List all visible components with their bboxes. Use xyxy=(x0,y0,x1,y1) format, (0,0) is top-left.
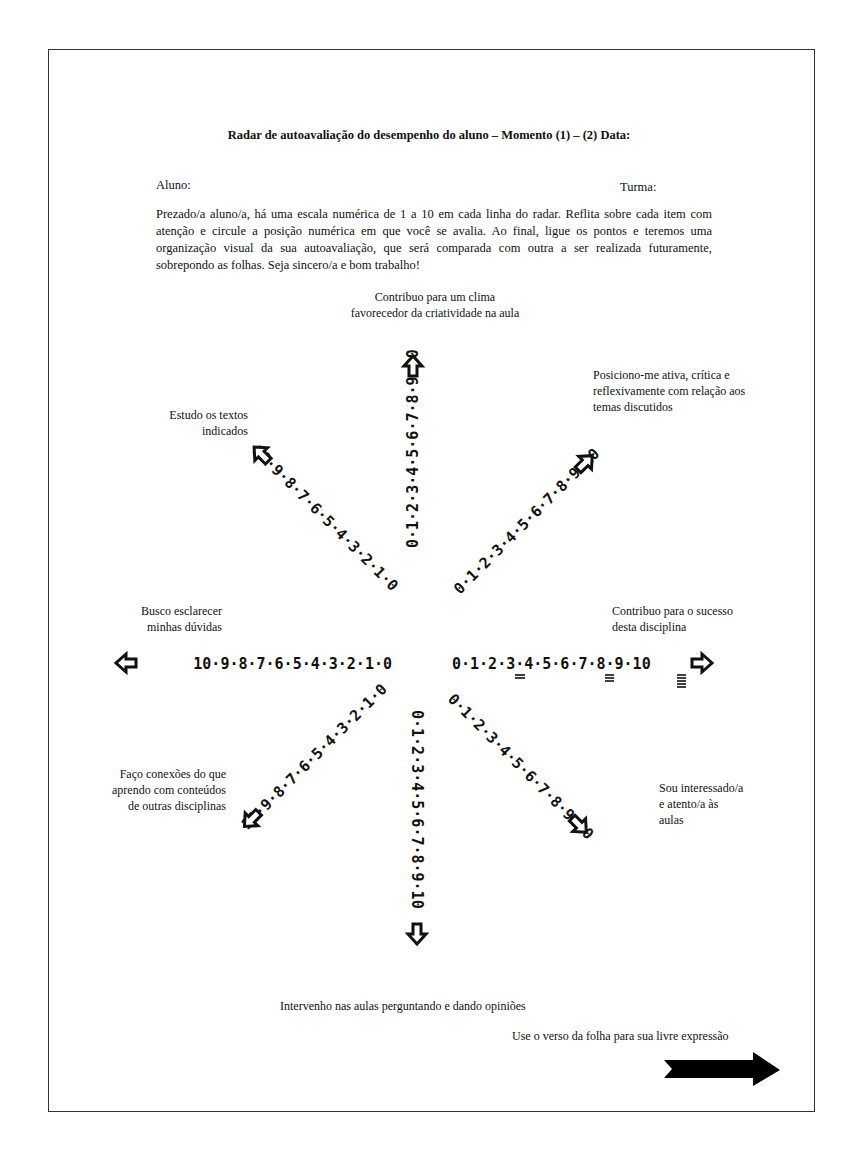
arrow-left-icon xyxy=(116,654,136,672)
scale-axis-down[interactable]: 0·1·2·3·4·5·6·7·8·9·10 xyxy=(408,710,426,944)
radar-diagram: 0·1·2·3·4·5·6·7·8·9·10 0·1·2·3·4·5·6·7·8… xyxy=(0,0,858,1159)
scale-axis-up-right[interactable]: 0·1·2·3·4·5·6·7·8·9·10 xyxy=(450,445,603,598)
scale-numbers[interactable]: 10·9·8·7·6·5·4·3·2·1·0 xyxy=(238,680,391,833)
arrow-down-icon xyxy=(408,924,426,944)
scale-numbers[interactable]: 10·9·8·7·6·5·4·3·2·1·0 xyxy=(193,655,392,673)
scale-numbers[interactable]: 0·1·2·3·4·5·6·7·8·9·10 xyxy=(408,710,426,909)
scale-axis-down-left[interactable]: 10·9·8·7·6·5·4·3·2·1·0 xyxy=(238,680,391,833)
scale-numbers[interactable]: 10·9·8·7·6·5·4·3·2·1·0 xyxy=(249,442,402,595)
scale-numbers[interactable]: 0·1·2·3·4·5·6·7·8·9·10 xyxy=(452,655,651,673)
scale-numbers[interactable]: 0·1·2·3·4·5·6·7·8·9·10 xyxy=(404,349,422,548)
scale-axis-up-left[interactable]: 10·9·8·7·6·5·4·3·2·1·0 xyxy=(248,441,402,595)
scale-axis-down-right[interactable]: 0·1·2·3·4·5·6·7·8·9·10 xyxy=(444,690,597,843)
scale-axis-right[interactable]: 0·1·2·3·4·5·6·7·8·9·10 xyxy=(452,654,712,687)
scale-axis-up[interactable]: 0·1·2·3·4·5·6·7·8·9·10 xyxy=(404,349,422,548)
pen-marks xyxy=(515,675,686,687)
arrow-right-icon xyxy=(692,654,712,672)
next-page-arrow-icon xyxy=(664,1052,780,1086)
scale-axis-left[interactable]: 10·9·8·7·6·5·4·3·2·1·0 xyxy=(116,654,392,673)
